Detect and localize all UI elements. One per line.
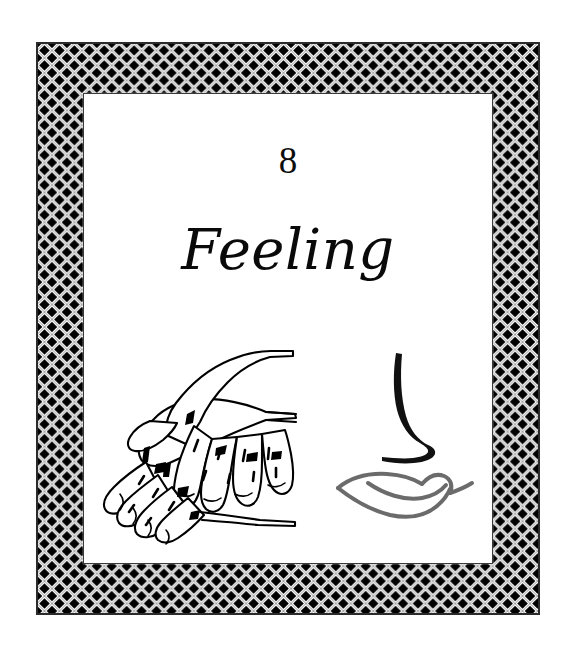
chapter-number: 8 <box>84 142 492 179</box>
two-hands-touching-illustration <box>90 342 325 547</box>
chapter-title: Feeling <box>84 222 492 278</box>
chapter-page: 8 Feeling <box>0 0 575 653</box>
lips-icon <box>338 474 472 517</box>
illustration-group <box>84 342 492 552</box>
nose-and-lips-illustration <box>332 346 482 531</box>
content-panel: 8 Feeling <box>83 93 493 564</box>
decorative-frame: 8 Feeling <box>36 42 540 615</box>
nose-icon <box>382 353 435 463</box>
